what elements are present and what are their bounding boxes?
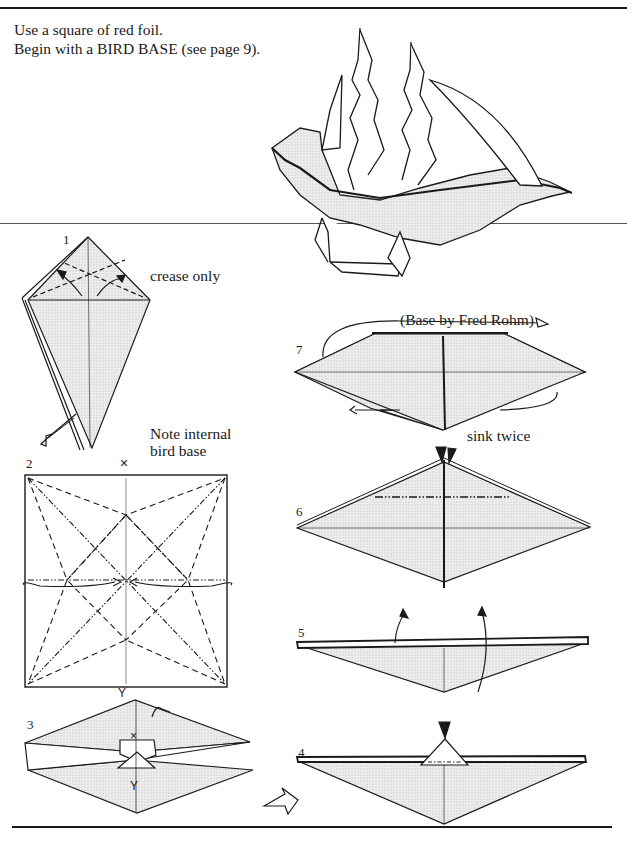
step-6-diagram	[297, 447, 590, 588]
step-2-diagram	[23, 475, 232, 687]
step-3-diagram	[25, 700, 253, 813]
step-4-diagram	[297, 722, 586, 824]
mark-x-step3: ×	[130, 729, 137, 743]
diagram-canvas: × Y × Y	[0, 0, 627, 841]
step-5-diagram	[297, 607, 588, 692]
step-1-diagram	[22, 237, 150, 450]
ship-icon	[272, 28, 572, 276]
turn-over-arrow-icon	[264, 788, 298, 814]
mark-y-step3: Y	[130, 779, 138, 793]
step-7-diagram	[295, 318, 585, 430]
mark-y-bottom: Y	[118, 686, 126, 700]
mark-x-top: ×	[120, 455, 128, 471]
